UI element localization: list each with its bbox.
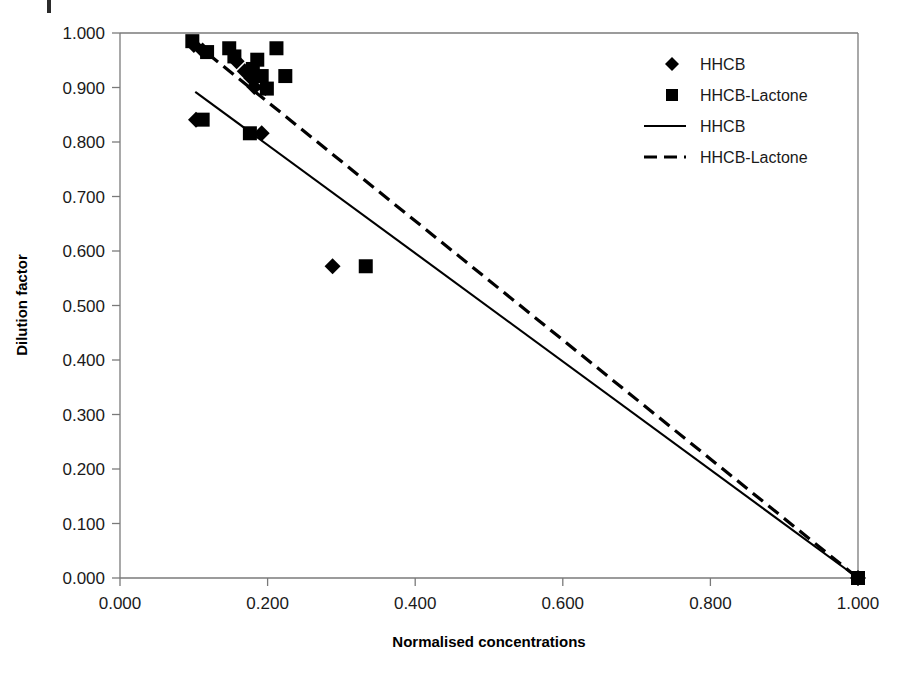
y-axis-title: Dilution factor (13, 254, 30, 356)
y-tick-label: 0.800 (62, 133, 105, 152)
y-tick-label: 0.000 (62, 569, 105, 588)
y-tick-label: 0.300 (62, 406, 105, 425)
x-tick-label: 0.400 (394, 594, 437, 613)
series-lines-group (192, 41, 858, 578)
x-axis-title: Normalised concentrations (392, 633, 585, 650)
y-tick-label: 0.400 (62, 351, 105, 370)
data-point-diamond (325, 258, 341, 274)
page-artifact-mark (47, 0, 51, 13)
y-tick-label: 0.500 (62, 297, 105, 316)
x-tick-label: 0.800 (689, 594, 732, 613)
data-point-square (185, 34, 199, 48)
y-tick-label: 0.200 (62, 460, 105, 479)
data-point-square (196, 113, 210, 127)
scatter-chart: 0.0000.1000.2000.3000.4000.5000.6000.700… (0, 0, 901, 679)
legend-marker-square (666, 89, 678, 101)
x-tick-label: 1.000 (837, 594, 880, 613)
data-point-square (278, 69, 292, 83)
data-point-square (255, 69, 269, 83)
x-axis-ticks: 0.0000.2000.4000.6000.8001.000 (99, 578, 880, 613)
legend-label: HHCB-Lactone (700, 87, 808, 104)
y-tick-label: 0.700 (62, 188, 105, 207)
data-point-square (260, 82, 274, 96)
chart-legend: HHCBHHCB-LactoneHHCBHHCB-Lactone (644, 56, 808, 166)
chart-figure: 0.0000.1000.2000.3000.4000.5000.6000.700… (0, 0, 901, 679)
legend-label: HHCB (700, 118, 745, 135)
data-point-square (359, 259, 373, 273)
legend-marker-diamond (665, 57, 679, 71)
x-tick-label: 0.200 (246, 594, 289, 613)
y-tick-label: 1.000 (62, 24, 105, 43)
data-point-square (851, 571, 865, 585)
legend-label: HHCB-Lactone (700, 149, 808, 166)
x-tick-label: 0.600 (542, 594, 585, 613)
data-point-square (269, 41, 283, 55)
x-tick-label: 0.000 (99, 594, 142, 613)
data-point-square (200, 45, 214, 59)
y-tick-label: 0.100 (62, 515, 105, 534)
data-point-square (227, 49, 241, 63)
y-tick-label: 0.900 (62, 79, 105, 98)
legend-label: HHCB (700, 56, 745, 73)
series-line-dashed (192, 41, 858, 578)
data-point-square (243, 126, 257, 140)
y-axis-ticks: 0.0000.1000.2000.3000.4000.5000.6000.700… (62, 24, 120, 588)
y-tick-label: 0.600 (62, 242, 105, 261)
